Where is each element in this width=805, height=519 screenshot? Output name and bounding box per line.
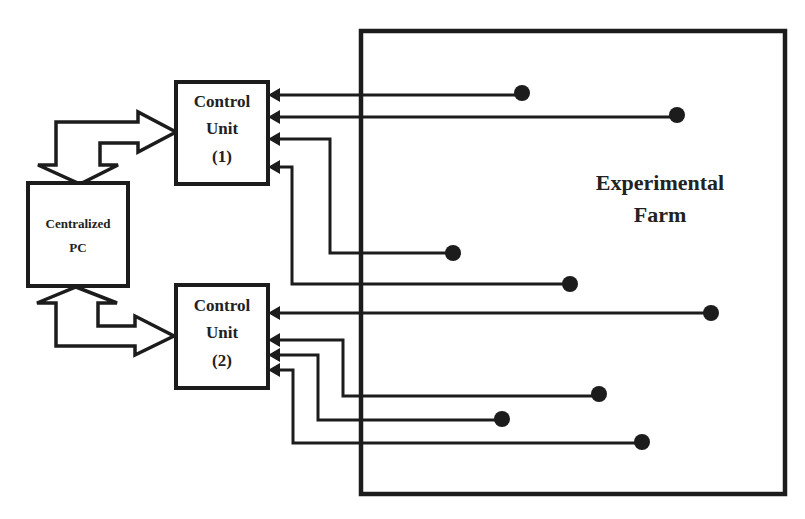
- control-unit-1-label-line2: Unit: [206, 119, 238, 138]
- control-unit-1-node: Control Unit (1): [176, 82, 268, 184]
- bus-arrow-pc-cu2: [37, 287, 174, 355]
- bus-arrow-pc-cu1: [38, 112, 176, 184]
- centralized-pc-box: [28, 183, 128, 286]
- sensor-node-5: [703, 305, 719, 321]
- sensor-wire-8: [272, 370, 642, 443]
- sensor-node-3: [445, 245, 461, 261]
- sensor-node-7: [494, 411, 510, 427]
- farm-control-diagram: Experimental Farm Cent: [0, 0, 805, 519]
- centralized-pc-node: Centralized PC: [28, 183, 128, 286]
- experimental-farm-frame: [361, 31, 785, 494]
- sensor-wire-7: [272, 355, 502, 420]
- sensor-node-4: [562, 276, 578, 292]
- sensor-node-6: [591, 386, 607, 402]
- cu2-sensor-wires: [268, 305, 719, 450]
- sensor-node-8: [634, 434, 650, 450]
- control-unit-2-label-line3: (2): [212, 351, 232, 370]
- sensor-wire-6: [272, 340, 599, 396]
- control-unit-1-label-line3: (1): [212, 147, 232, 166]
- sensor-node-2: [669, 107, 685, 123]
- centralized-pc-label-line1: Centralized: [46, 216, 112, 231]
- sensor-node-1: [514, 85, 530, 101]
- sensor-wire-4: [272, 167, 570, 284]
- control-unit-2-node: Control Unit (2): [176, 285, 268, 388]
- centralized-pc-label-line2: PC: [69, 240, 86, 255]
- farm-label-line2: Farm: [634, 202, 687, 227]
- control-unit-2-label-line2: Unit: [206, 323, 238, 342]
- farm-label-line1: Experimental: [596, 170, 724, 195]
- control-unit-2-label-line1: Control: [194, 296, 251, 315]
- control-unit-1-label-line1: Control: [194, 92, 251, 111]
